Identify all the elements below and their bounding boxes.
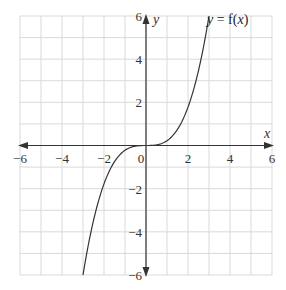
- curve-label-close: ): [244, 12, 249, 28]
- function-graph: −6−4−20246642−2−4−6 x y y = f(x): [0, 0, 286, 290]
- x-tick-label: −2: [97, 151, 111, 166]
- y-tick-label: 6: [136, 9, 143, 24]
- curve-label: y = f(x): [205, 12, 249, 28]
- x-axis-label: x: [263, 126, 271, 141]
- y-axis-label: y: [151, 12, 160, 27]
- y-tick-label: 2: [136, 95, 143, 110]
- x-tick-label: −4: [55, 151, 69, 166]
- y-tick-label: 4: [136, 52, 143, 67]
- x-tick-label: 6: [269, 151, 276, 166]
- y-tick-label: −6: [128, 268, 142, 283]
- x-tick-label: 4: [227, 151, 234, 166]
- x-tick-label: 0: [138, 151, 145, 166]
- x-tick-label: −6: [13, 151, 27, 166]
- curve-label-eq: = f(: [213, 12, 238, 28]
- x-tick-label: 2: [185, 151, 192, 166]
- y-tick-label: −2: [128, 182, 142, 197]
- y-tick-label: −4: [128, 225, 142, 240]
